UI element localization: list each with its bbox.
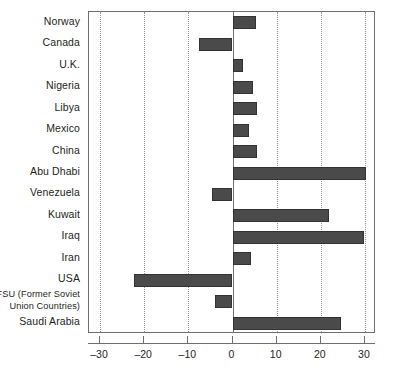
category-label: Abu Dhabi [0, 166, 84, 177]
x-axis-tick-label: –30 [79, 348, 119, 360]
x-axis: –30–20–100102030 [88, 333, 375, 383]
category-label: U.K. [0, 59, 84, 70]
x-axis-tick [320, 336, 321, 344]
category-label: USA [0, 273, 84, 284]
x-axis-tick-label: 10 [256, 348, 296, 360]
bar [233, 252, 252, 265]
category-label: Libya [0, 102, 84, 113]
x-axis-tick [99, 336, 100, 344]
bar [233, 16, 256, 29]
category-label: Venezuela [0, 187, 84, 198]
bar [233, 59, 244, 72]
x-axis-tick [187, 336, 188, 344]
category-label: FSU (Former Soviet Union Countries) [0, 289, 84, 312]
category-label: Nigeria [0, 80, 84, 91]
bar [233, 102, 257, 115]
x-axis-tick [232, 336, 233, 344]
category-axis-labels: NorwayCanadaU.K.NigeriaLibyaMexicoChinaA… [0, 11, 84, 333]
category-label: Iraq [0, 230, 84, 241]
category-label: China [0, 145, 84, 156]
bar [233, 145, 257, 158]
category-label: Saudi Arabia [0, 316, 84, 327]
x-axis-tick-label: –20 [123, 348, 163, 360]
plot-area [88, 11, 375, 333]
x-axis-tick-label: 0 [212, 348, 252, 360]
x-axis-tick [143, 336, 144, 344]
x-axis-tick-label: 30 [344, 348, 384, 360]
x-axis-tick [364, 336, 365, 344]
bar [215, 295, 233, 308]
x-axis-tick-label: 20 [300, 348, 340, 360]
bar [233, 124, 249, 137]
category-label: Mexico [0, 123, 84, 134]
bar [199, 38, 233, 51]
bar [134, 274, 232, 287]
x-axis-tick [276, 336, 277, 344]
bar [233, 317, 342, 330]
x-axis-tick-label: –10 [167, 348, 207, 360]
horizontal-bar-chart: NorwayCanadaU.K.NigeriaLibyaMexicoChinaA… [0, 0, 396, 383]
bar [233, 81, 253, 94]
bar [233, 209, 329, 222]
category-label: Iran [0, 252, 84, 263]
category-label: Canada [0, 37, 84, 48]
category-label: Kuwait [0, 209, 84, 220]
bar [233, 167, 367, 180]
bar [233, 231, 364, 244]
bar [212, 188, 232, 201]
gridline-neg30 [100, 12, 101, 332]
category-label: Norway [0, 16, 84, 27]
